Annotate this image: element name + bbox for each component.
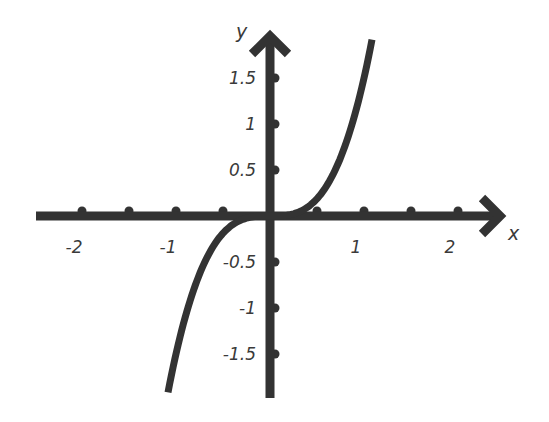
y-tick-label: -1.5 xyxy=(223,344,256,364)
x-tick-label: -2 xyxy=(66,237,83,257)
y-tick-label: 1.5 xyxy=(229,68,256,88)
y-tick-label: 1 xyxy=(245,114,256,134)
x-axis-label: x xyxy=(507,222,520,244)
y-tick-label: 0.5 xyxy=(229,160,256,180)
x-tick-label: 2 xyxy=(445,237,456,257)
x-tick-label: -1 xyxy=(160,237,177,257)
y-tick-label: -0.5 xyxy=(223,252,256,272)
y-axis-label: y xyxy=(235,20,248,42)
x-tick-label: 1 xyxy=(351,237,362,257)
cubic-function-graph: -2-1121.510.5-0.5-1-1.5 x y xyxy=(0,0,549,422)
y-tick-label: -1 xyxy=(239,298,256,318)
